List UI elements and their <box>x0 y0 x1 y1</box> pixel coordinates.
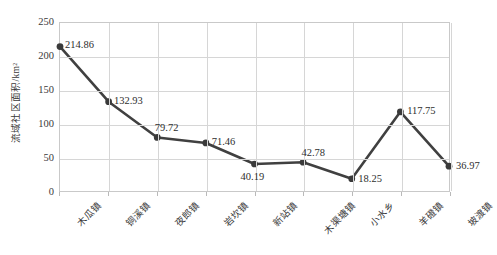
data-point-label: 117.75 <box>407 105 436 116</box>
x-tick-label: 坡渡镇 <box>466 200 495 229</box>
x-tick-mark <box>157 192 158 196</box>
x-tick-mark <box>303 192 304 196</box>
x-tick-label: 岩坎镇 <box>222 200 251 229</box>
x-tick-label: 新站镇 <box>270 200 299 229</box>
x-tick-label: 木渠塘镇 <box>322 200 359 237</box>
x-tick-label: 小水乡 <box>368 200 397 229</box>
x-tick-label: 铜溪镇 <box>124 200 153 229</box>
x-tick-label: 木瓜镇 <box>75 200 104 229</box>
x-tick-mark <box>401 192 402 196</box>
data-point-label: 71.46 <box>212 136 236 147</box>
data-point-label: 40.19 <box>241 171 265 182</box>
x-tick-mark <box>108 192 109 196</box>
x-tick-mark <box>255 192 256 196</box>
line-chart: 流域社区面积/km² 050100150200250 木瓜镇铜溪镇夜郎镇岩坎镇新… <box>0 0 497 255</box>
data-point-label: 36.97 <box>456 160 480 171</box>
data-point-label: 79.72 <box>155 122 179 133</box>
x-tick-label: 羊磴镇 <box>417 200 446 229</box>
data-point-label: 132.93 <box>114 95 143 106</box>
x-tick-mark <box>206 192 207 196</box>
x-tick-mark <box>352 192 353 196</box>
x-tick-label: 夜郎镇 <box>173 200 202 229</box>
x-tick-mark <box>450 192 451 196</box>
data-point-label: 18.25 <box>358 173 382 184</box>
x-tick-mark <box>59 192 60 196</box>
data-point-label: 214.86 <box>65 39 94 50</box>
data-point-label: 42.78 <box>301 147 325 158</box>
